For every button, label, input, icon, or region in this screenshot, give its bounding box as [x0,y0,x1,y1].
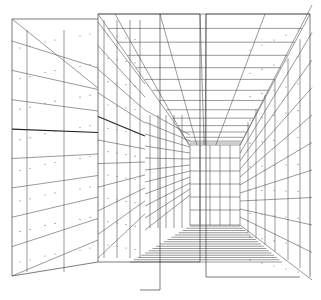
corridor-perspective-svg [0,0,321,300]
perspective-drawing [0,0,321,300]
back-wall [190,145,240,225]
left-wall-panel [12,19,98,276]
floor-steps [12,226,300,277]
right-wall-panel [240,5,312,280]
center-left-panel [98,20,190,258]
